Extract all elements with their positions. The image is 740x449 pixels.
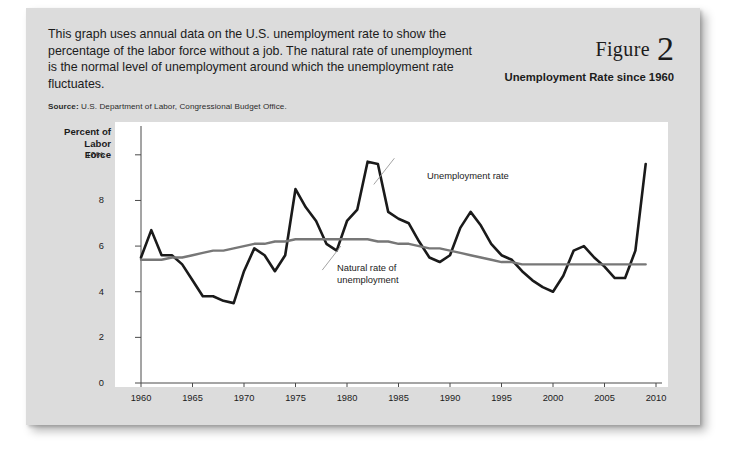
figure-number: 2 <box>657 30 674 67</box>
x-tick-label-1970: 1970 <box>234 393 255 403</box>
x-tick-label-1980: 1980 <box>337 393 358 403</box>
x-tick-label-2005: 2005 <box>594 393 615 403</box>
x-tick-label-1985: 1985 <box>388 393 409 403</box>
source-label: Source: <box>48 102 79 111</box>
x-tick-label-2000: 2000 <box>543 393 564 403</box>
figure-word: Figure <box>595 38 650 60</box>
source-text: U.S. Department of Labor, Congressional … <box>81 102 287 111</box>
y-tick-label-0: 0 <box>99 378 104 388</box>
figure-heading: Figure2 <box>454 26 674 64</box>
y-tick-label-6: 6 <box>99 241 104 251</box>
x-tick-label-1960: 1960 <box>131 393 152 403</box>
x-axis-tick-labels: 1960196519701975198019851990199520002005… <box>115 387 668 409</box>
plot-area: Unemployment rate Natural rate of unempl… <box>115 122 668 387</box>
y-tick-label-4: 4 <box>99 287 104 297</box>
x-tick-label-1995: 1995 <box>491 393 512 403</box>
intro-paragraph: This graph uses annual data on the U.S. … <box>48 26 478 92</box>
figure-card: This graph uses annual data on the U.S. … <box>26 8 700 425</box>
x-tick-label-2010: 2010 <box>646 393 667 403</box>
y-axis-tick-labels: 0246810% <box>26 122 112 387</box>
figure-identifier: Figure2 Unemployment Rate since 1960 <box>454 26 674 85</box>
annotation-unemployment-rate: Unemployment rate <box>427 170 509 182</box>
x-tick-label-1965: 1965 <box>182 393 203 403</box>
y-tick-label-10: 10% <box>85 150 104 160</box>
annotation-natural-rate: Natural rate of unemployment <box>337 262 399 285</box>
chart-plot-svg <box>115 122 668 387</box>
x-tick-label-1990: 1990 <box>440 393 461 403</box>
x-tick-label-1975: 1975 <box>285 393 306 403</box>
source-line: Source: U.S. Department of Labor, Congre… <box>48 102 478 111</box>
header-text-block: This graph uses annual data on the U.S. … <box>48 26 478 111</box>
figure-subtitle: Unemployment Rate since 1960 <box>454 70 674 85</box>
y-tick-label-2: 2 <box>99 332 104 342</box>
annotation-leader-line <box>374 158 395 184</box>
y-tick-label-8: 8 <box>99 195 104 205</box>
